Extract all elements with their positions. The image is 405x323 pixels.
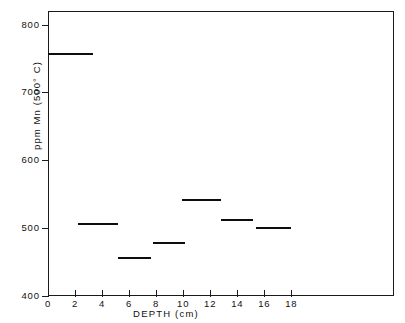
- x-axis-tick: [183, 290, 184, 297]
- y-axis-tick: [42, 228, 49, 229]
- x-axis-tick: [156, 290, 157, 297]
- x-axis-tick: [210, 290, 211, 297]
- x-axis-title: DEPTH (cm): [0, 308, 339, 319]
- x-axis-tick: [291, 290, 292, 297]
- y-axis-tick-label: 500: [0, 222, 40, 233]
- y-axis-tick: [42, 25, 49, 26]
- y-axis-tick: [42, 160, 49, 161]
- x-axis-tick: [237, 290, 238, 297]
- y-axis-title: ppm Mn (500° C): [31, 21, 42, 191]
- y-axis-tick: [42, 92, 49, 93]
- y-axis-tick-label: 400: [0, 290, 40, 301]
- x-axis-tick: [129, 290, 130, 297]
- figure-container: 400500600700800024681012141618 DEPTH (cm…: [0, 0, 405, 323]
- x-axis-tick: [75, 290, 76, 297]
- x-axis-tick: [264, 290, 265, 297]
- x-axis-tick: [102, 290, 103, 297]
- plot-frame: [48, 11, 394, 296]
- x-axis-tick: [48, 290, 49, 297]
